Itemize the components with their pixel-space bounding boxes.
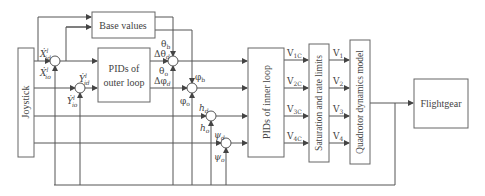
sum-phi-junction [187,83,197,93]
label-phi-observed: φo [180,96,190,107]
label-v1: V1 [332,48,343,59]
label-v4: V4 [332,131,344,142]
flightgear-label: Flightgear [420,98,462,109]
label-phi-base: φb [195,72,205,83]
label-psi-desired: ψd [214,130,225,141]
label-x-desired: Ẋlid [39,47,51,61]
label-v2: V2 [332,76,344,87]
saturation-label: Saturation and rate limits [314,55,324,151]
flightgear-block: Flightgear [414,79,468,128]
base-values-label: Base values [99,20,147,31]
label-delta-phi-desired: Δφd [154,76,171,87]
label-x-observed: Ẋlio [39,66,51,80]
quadrotor-label: Quadrotor dynamics model [355,50,365,154]
joystick-label: Joystick [20,86,31,119]
quadrotor-model-block: Quadrotor dynamics model [350,40,370,164]
label-v3: V3 [332,104,344,115]
outer-loop-label-line1: PIDs of [109,63,141,74]
sum-x-junction [50,56,60,66]
label-v2c: V2C [286,76,302,87]
joystick-block: Joystick [18,48,34,157]
base-values-block: Base values [92,12,155,38]
label-h-desired: hd [199,103,209,114]
label-v1c: V1C [286,48,302,59]
label-v3c: V3C [286,104,302,115]
signal-labels: Ẋlid Ẋlio Ẏlid Ẏlio [39,47,90,108]
outer-loop-pid-block: PIDs of outer loop [98,48,150,102]
inner-loop-label: PIDs of inner loop [261,65,272,139]
label-v4c: V4C [286,131,302,142]
quadrotor-control-block-diagram: Joystick Base values PIDs of outer loop … [0,0,485,196]
label-psi-observed: ψo [214,152,225,163]
outer-loop-label-line2: outer loop [104,77,145,88]
label-y-observed: Ẏlio [67,94,78,108]
command-labels: V1C V2C V3C V4C [286,48,302,142]
label-delta-theta-desired: Δθd [154,49,170,60]
inner-loop-pid-block: PIDs of inner loop [248,48,284,157]
saturation-block: Saturation and rate limits [309,44,329,162]
label-h-observed: ho [200,123,210,134]
output-labels: V1 V2 V3 V4 [332,48,344,142]
label-y-desired: Ẏlid [79,72,90,86]
attitude-labels: θb Δθd θo Δφd φb φo hd ho ψd ψo [154,39,225,163]
